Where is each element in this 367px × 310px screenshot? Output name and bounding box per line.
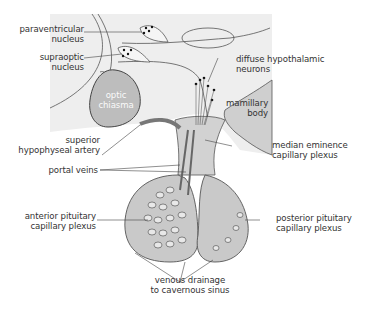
label-superior-hypophyseal-artery: superior hypophyseal artery: [10, 135, 100, 155]
label-posterior-pituitary-plexus: posterior pituitary capillary plexus: [276, 213, 352, 233]
label-optic-chiasma: optic chiasma: [96, 90, 136, 110]
label-anterior-pituitary-plexus: anterior pituitary capillary plexus: [10, 211, 96, 231]
hypophyseal-artery: [140, 120, 180, 128]
label-diffuse-hypothalamic-neurons: diffuse hypothalamic neurons: [236, 54, 324, 74]
label-median-eminence-plexus: median eminence capillary plexus: [272, 140, 348, 160]
label-mamillary-body: mamillary body: [226, 98, 268, 118]
label-supraoptic-nucleus: supraoptic nucleus: [18, 52, 84, 72]
label-portal-veins: portal veins: [20, 165, 98, 175]
label-venous-drainage: venous drainage to cavernous sinus: [140, 275, 240, 295]
label-paraventricular-nucleus: paraventricular nucleus: [18, 24, 84, 44]
posterior-pituitary: [197, 175, 248, 262]
